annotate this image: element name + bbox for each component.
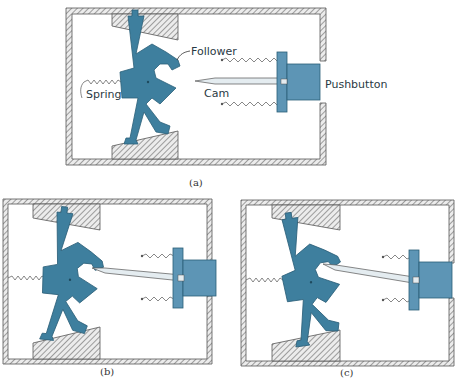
- mechanism-diagram: Follower Spring Cam Pushbutton (a) (b): [0, 0, 464, 381]
- cam-part: [323, 264, 414, 283]
- label-pushbutton: Pushbutton: [325, 78, 387, 91]
- spring-icon: [84, 80, 126, 84]
- caption-b: (b): [100, 366, 114, 377]
- caption-a: (a): [189, 177, 203, 188]
- caption-c: (c): [340, 367, 354, 378]
- label-follower: Follower: [191, 45, 237, 58]
- cam-part: [195, 78, 285, 84]
- panel-b: (b): [3, 199, 216, 377]
- label-cam: Cam: [204, 87, 229, 100]
- cam-part: [92, 268, 182, 281]
- label-spring: Spring: [86, 88, 122, 101]
- panel-c: (c): [241, 200, 454, 378]
- panel-a: Follower Spring Cam Pushbutton (a): [66, 8, 387, 188]
